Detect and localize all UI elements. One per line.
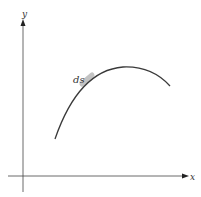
x-axis-label: x xyxy=(190,172,195,182)
ds-label: ds xyxy=(73,74,85,85)
y-axis-label: y xyxy=(21,9,28,19)
arc-length-diagram: y x ds xyxy=(0,0,201,197)
y-axis-arrow-icon xyxy=(21,19,26,26)
x-axis-arrow-icon xyxy=(182,174,189,179)
